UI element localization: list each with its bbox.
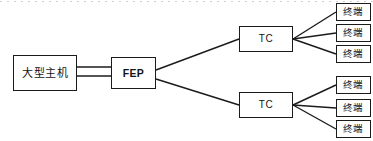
node-tc-top: TC [239, 26, 293, 52]
node-fep-label: FEP [123, 68, 144, 79]
node-terminal-label: 终端 [343, 80, 363, 90]
link-tc-top-terminal-2 [293, 33, 336, 39]
node-mainframe-label: 大型主机 [22, 68, 68, 79]
node-terminal-bottom-2: 终端 [336, 99, 371, 117]
node-fep: FEP [111, 57, 156, 89]
scan-artifact-line [0, 1, 373, 2]
node-tc-bottom-label: TC [259, 100, 273, 110]
node-terminal-label: 终端 [343, 103, 363, 113]
node-mainframe: 大型主机 [13, 55, 77, 91]
link-fep-to-tc-bottom [156, 79, 239, 105]
node-terminal-label: 终端 [343, 49, 363, 59]
node-terminal-top-3: 终端 [336, 45, 371, 63]
link-tc-top-terminal-1 [293, 12, 336, 39]
link-tc-top-terminal-3 [293, 39, 336, 54]
node-terminal-bottom-1: 终端 [336, 76, 371, 94]
link-tc-bottom-terminal-1 [293, 85, 336, 105]
node-terminal-top-1: 终端 [336, 3, 371, 21]
node-terminal-label: 终端 [343, 28, 363, 38]
link-host-to-fep [77, 67, 111, 76]
link-tc-bottom-terminal-2 [293, 105, 336, 108]
link-fep-to-tc-top [156, 39, 239, 70]
node-terminal-top-2: 终端 [336, 24, 371, 42]
node-tc-bottom: TC [239, 92, 293, 118]
node-tc-top-label: TC [259, 34, 273, 44]
node-terminal-label: 终端 [343, 124, 363, 134]
network-topology-diagram: 大型主机 FEP TC TC 终端 终端 终端 终端 终端 终端 [0, 0, 373, 141]
link-group-tc-top-terminals [293, 12, 336, 54]
link-group-tc-bottom-terminals [293, 85, 336, 129]
link-tc-bottom-terminal-3 [293, 105, 336, 129]
node-terminal-label: 终端 [343, 7, 363, 17]
node-terminal-bottom-3: 终端 [336, 120, 371, 138]
